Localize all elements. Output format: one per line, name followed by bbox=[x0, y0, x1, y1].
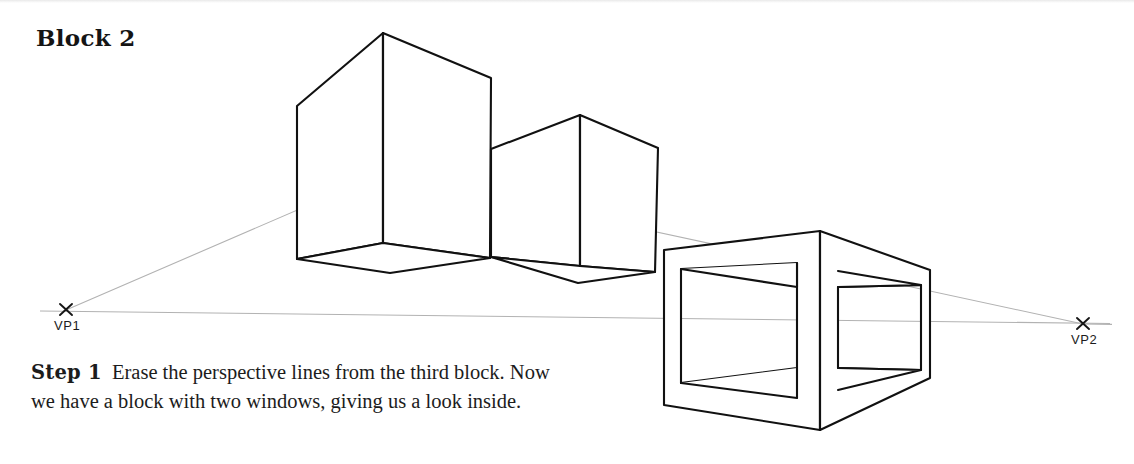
vp1-cross-icon bbox=[60, 304, 72, 315]
block-three-right-face bbox=[820, 231, 930, 430]
block-two-left-face bbox=[491, 115, 580, 266]
block-one bbox=[297, 33, 491, 273]
guide-horizon bbox=[40, 311, 1110, 324]
vp2-label: VP2 bbox=[1071, 332, 1097, 347]
block-three bbox=[664, 231, 930, 430]
caption-step-label: Step 1 bbox=[31, 361, 102, 384]
block-three-left-window-reveal bbox=[681, 263, 797, 398]
vp1-label: VP1 bbox=[54, 318, 80, 333]
block-three-left-face bbox=[664, 231, 820, 430]
block-three-right-window-reveal bbox=[838, 271, 921, 390]
block-one-left-face bbox=[297, 33, 383, 259]
vanishing-point-markers bbox=[60, 304, 1089, 329]
caption: Step 1 Erase the perspective lines from … bbox=[31, 358, 551, 416]
page-title: Block 2 bbox=[36, 24, 136, 51]
figure-page: Block 2 Step 1 Erase the perspective lin… bbox=[0, 0, 1134, 464]
block-two bbox=[491, 115, 658, 283]
block-one-right-face bbox=[383, 33, 491, 258]
block-two-right-face bbox=[580, 115, 658, 272]
